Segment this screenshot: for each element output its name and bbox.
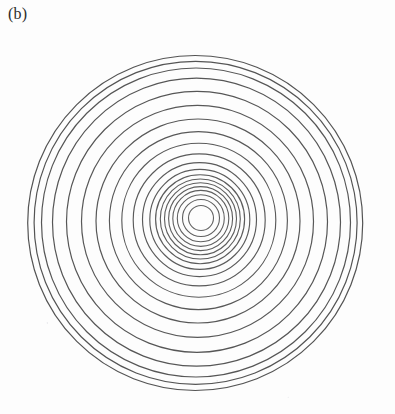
ring-12: [122, 143, 276, 297]
ring-6: [165, 183, 237, 255]
figure-panel: (b): [0, 0, 395, 414]
ring-18: [42, 68, 351, 377]
ring-1: [189, 206, 214, 231]
concentric-rings-plot: [0, 0, 395, 414]
ring-4: [173, 190, 229, 246]
panel-label: (b): [8, 6, 27, 22]
ring-series: [28, 56, 363, 391]
ring-19: [34, 61, 357, 384]
ring-13: [109, 132, 287, 310]
ring-11: [133, 154, 265, 286]
ring-3: [177, 195, 224, 242]
ring-14: [96, 119, 300, 323]
ring-5: [169, 187, 233, 251]
ring-16: [67, 91, 328, 352]
ring-15: [82, 105, 314, 337]
